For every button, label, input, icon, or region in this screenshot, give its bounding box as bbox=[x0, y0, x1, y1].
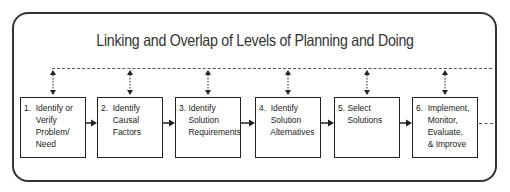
bidirectional-arrow-icon bbox=[284, 70, 292, 95]
step-box-1: 1. Identify or Verify Problem/ Need bbox=[20, 97, 86, 158]
bidirectional-arrow-icon bbox=[363, 70, 371, 95]
flow-arrow-icon bbox=[241, 119, 255, 127]
flow-arrow-icon bbox=[163, 119, 175, 127]
flow-arrow-icon bbox=[86, 119, 97, 127]
step-label: 6. Implement, Monitor, Evaluate, & Impro… bbox=[416, 102, 470, 150]
continuation-dashed-line bbox=[479, 123, 493, 124]
step-label: 5. Select Solutions bbox=[338, 102, 382, 126]
flow-arrow-icon bbox=[321, 119, 334, 127]
diagram-title: Linking and Overlap of Levels of Plannin… bbox=[36, 31, 475, 50]
step-label: 2. Identify Causal Factors bbox=[101, 102, 141, 138]
step-box-5: 5. Select Solutions bbox=[334, 97, 400, 158]
step-box-3: 3. Identify Solution Requirements bbox=[175, 97, 241, 158]
step-label: 3. Identify Solution Requirements bbox=[179, 102, 241, 138]
bidirectional-arrow-icon bbox=[204, 70, 212, 95]
step-box-4: 4. Identify Solution Alternatives bbox=[255, 97, 321, 158]
step-label: 4. Identify Solution Alternatives bbox=[259, 102, 314, 138]
step-box-6: 6. Implement, Monitor, Evaluate, & Impro… bbox=[412, 97, 478, 158]
bidirectional-arrow-icon bbox=[49, 70, 57, 95]
step-box-2: 2. Identify Causal Factors bbox=[97, 97, 163, 158]
bidirectional-arrow-icon bbox=[126, 70, 134, 95]
overlap-dashed-line bbox=[52, 68, 492, 69]
step-label: 1. Identify or Verify Problem/ Need bbox=[24, 102, 73, 150]
bidirectional-arrow-icon bbox=[441, 70, 449, 95]
flow-arrow-icon bbox=[400, 119, 412, 127]
